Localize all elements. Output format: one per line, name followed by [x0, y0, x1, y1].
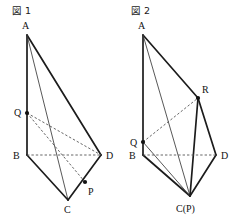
edge-b-c [27, 155, 68, 200]
vertex-label-q: Q [130, 137, 138, 148]
vertex-label-a: A [22, 20, 30, 31]
vertex-label-c: C [64, 204, 71, 215]
figure-1-caption: 図 1 [12, 5, 31, 16]
edge-q-r [143, 98, 198, 142]
figure-sheet: ABCDQP図 1ABC(P)DQR図 2 [0, 0, 237, 217]
vertex-label-d: D [221, 150, 228, 161]
vertex-label-p: P [88, 186, 94, 197]
vertex-dot-p [83, 180, 87, 184]
edge-a-c [27, 35, 68, 200]
edge-r-d [198, 98, 216, 155]
edge-b-cp [143, 155, 190, 196]
edge-a-r [143, 35, 198, 98]
edge-q-d [27, 113, 101, 155]
vertex-label-a: A [138, 20, 146, 31]
vertex-label-b: B [129, 150, 136, 161]
edge-q-cp [143, 142, 190, 196]
vertex-dot-q [141, 140, 145, 144]
figure-2: ABC(P)DQR図 2 [129, 5, 228, 215]
figure-2-caption: 図 2 [131, 5, 150, 16]
geometry-diagram-svg: ABCDQP図 1ABC(P)DQR図 2 [0, 0, 237, 217]
edge-a-d [27, 35, 101, 155]
vertex-dot-r [196, 96, 200, 100]
edge-a-cp [143, 35, 190, 196]
vertex-label-d: D [106, 150, 113, 161]
vertex-label-b: B [13, 150, 20, 161]
vertex-dot-q [25, 111, 29, 115]
figure-1: ABCDQP図 1 [12, 5, 113, 215]
vertex-label-r: R [202, 84, 209, 95]
edge-r-cp [190, 98, 198, 196]
edge-q-p [27, 113, 85, 182]
vertex-label-cp: C(P) [176, 203, 195, 215]
edge-c-d [68, 155, 101, 200]
vertex-label-q: Q [14, 107, 22, 118]
edge-cp-d [190, 155, 216, 196]
